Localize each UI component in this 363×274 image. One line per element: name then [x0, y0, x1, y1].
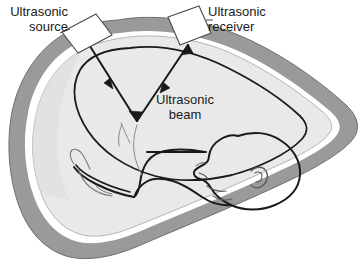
- diagram-canvas: [0, 0, 363, 274]
- ultrasonic-receiver-label: Ultrasonic receiver: [208, 4, 308, 34]
- ultrasonic-source-label: Ultrasonic source: [2, 4, 68, 34]
- ultrasonic-beam-label: Ultrasonic beam: [144, 92, 226, 122]
- ultrasound-fetus-diagram: Ultrasonic source Ultrasonic receiver Ul…: [0, 0, 363, 274]
